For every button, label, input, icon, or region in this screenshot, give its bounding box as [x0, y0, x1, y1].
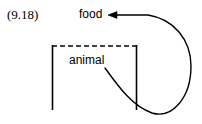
node-label-animal: animal [69, 54, 104, 66]
figure-container: (9.18) food animal [0, 0, 202, 124]
equation-number: (9.18) [7, 8, 38, 21]
node-label-food: food [79, 8, 102, 20]
arrowhead-icon [108, 12, 117, 19]
feedback-loop-curve [105, 15, 191, 114]
